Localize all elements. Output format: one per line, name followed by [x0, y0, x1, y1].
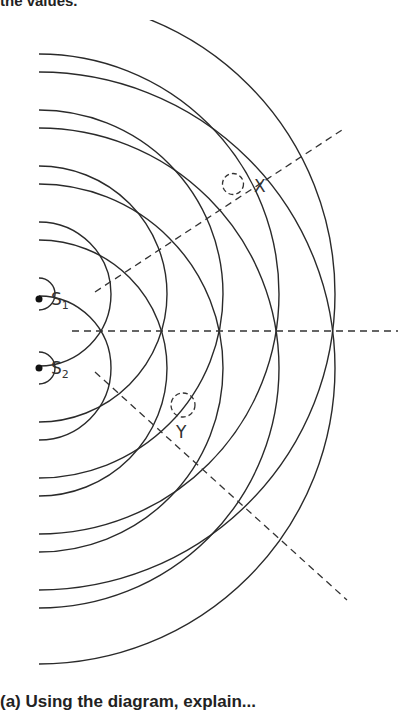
source-s2-dot — [36, 365, 43, 372]
antinodal-lines — [72, 128, 398, 600]
wavefront-arcs — [0, 0, 335, 664]
source-s1-dot — [36, 296, 43, 303]
point-x-label: X — [254, 176, 266, 196]
point-y-marker — [171, 393, 195, 417]
source-s2-label: S2 — [51, 358, 69, 381]
point-x-marker — [223, 174, 244, 195]
source-s1-label: S1 — [51, 289, 69, 312]
wavefront-arc-s1-2 — [0, 166, 167, 422]
lower-antinodal-line — [95, 372, 347, 600]
question-text-bottom: (a) Using the diagram, explain... — [0, 692, 256, 712]
point-y-label: Y — [175, 422, 187, 442]
wavefront-arc-s1-4 — [0, 54, 279, 534]
wavefront-arc-s2-2 — [0, 240, 167, 496]
